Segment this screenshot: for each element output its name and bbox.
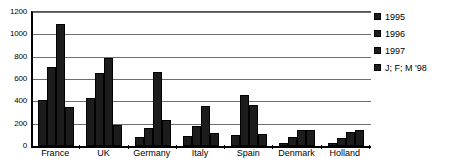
bar-group-germany [130, 12, 178, 146]
legend-label: J; F; M '98 [385, 63, 427, 73]
bar-denmark-1 [288, 137, 297, 146]
legend-swatch-icon [374, 13, 381, 20]
x-axis-label-holland: Holland [321, 148, 369, 166]
bar-group-spain [226, 12, 274, 146]
bar-chart: 120010008006004002000 FranceUKGermanyIta… [0, 0, 455, 166]
bar-holland-1 [337, 138, 346, 146]
bar-spain-2 [249, 105, 258, 146]
y-axis-tick-label: 600 [14, 74, 27, 83]
bar-holland-2 [346, 132, 355, 146]
legend-label: 1996 [385, 29, 405, 39]
bar-denmark-3 [306, 130, 315, 146]
legend-swatch-icon [374, 30, 381, 37]
y-axis-tick-label: 0 [23, 141, 27, 150]
x-axis-tick [321, 145, 322, 149]
x-axis-label-denmark: Denmark [272, 148, 320, 166]
bar-spain-1 [240, 95, 249, 146]
x-axis-label-italy: Italy [176, 148, 224, 166]
plot-area [31, 11, 371, 146]
bar-holland-3 [355, 130, 364, 146]
legend-item-1[interactable]: 1996 [374, 25, 454, 42]
bar-france-1 [47, 67, 56, 146]
bar-italy-1 [192, 126, 201, 146]
legend-label: 1995 [385, 12, 405, 22]
bar-group-uk [81, 12, 129, 146]
bar-uk-2 [104, 58, 113, 146]
bar-uk-3 [113, 125, 122, 146]
chart-legend: 199519961997J; F; M '98 [374, 8, 454, 76]
legend-label: 1997 [385, 46, 405, 56]
bar-uk-0 [86, 98, 95, 146]
x-axis-tick [176, 145, 177, 149]
bar-italy-3 [210, 133, 219, 146]
y-axis: 120010008006004002000 [0, 0, 30, 166]
legend-item-3[interactable]: J; F; M '98 [374, 59, 454, 76]
legend-item-2[interactable]: 1997 [374, 42, 454, 59]
x-axis-label-spain: Spain [224, 148, 272, 166]
x-axis-label-germany: Germany [128, 148, 176, 166]
y-axis-tick-label: 200 [14, 118, 27, 127]
y-axis-tick-label: 400 [14, 96, 27, 105]
bars-layer [33, 12, 371, 146]
x-axis-category-labels: FranceUKGermanyItalySpainDenmarkHolland [31, 148, 369, 166]
bar-group-italy [178, 12, 226, 146]
y-axis-tick-label: 1200 [10, 7, 27, 16]
x-axis-tick [128, 145, 129, 149]
bar-france-0 [38, 100, 47, 146]
bar-spain-3 [258, 134, 267, 146]
bar-spain-0 [231, 135, 240, 146]
bar-italy-2 [201, 106, 210, 146]
y-axis-tick-label: 800 [14, 51, 27, 60]
bar-denmark-2 [297, 130, 306, 146]
x-axis-label-france: France [31, 148, 79, 166]
bar-group-holland [323, 12, 371, 146]
bar-france-2 [56, 24, 65, 146]
bar-group-denmark [274, 12, 322, 146]
bar-germany-1 [144, 128, 153, 146]
x-axis-label-uk: UK [79, 148, 127, 166]
bar-uk-1 [95, 73, 104, 146]
bar-italy-0 [183, 136, 192, 146]
legend-item-0[interactable]: 1995 [374, 8, 454, 25]
bar-group-france [33, 12, 81, 146]
x-axis-tick [369, 145, 370, 149]
bar-germany-0 [135, 137, 144, 146]
legend-swatch-icon [374, 64, 381, 71]
bar-germany-3 [162, 120, 171, 146]
x-axis-tick [224, 145, 225, 149]
y-axis-tick-label: 1000 [10, 29, 27, 38]
x-axis-tick [272, 145, 273, 149]
x-axis-tick [79, 145, 80, 149]
legend-swatch-icon [374, 47, 381, 54]
bar-france-3 [65, 107, 74, 146]
bar-germany-2 [153, 72, 162, 146]
